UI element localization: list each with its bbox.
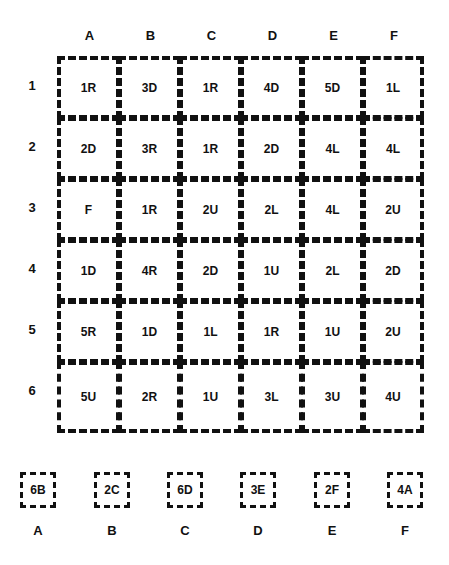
grid-cell: 1R	[179, 56, 242, 119]
answer-box: 2F	[314, 472, 350, 508]
grid-cell: 1U	[301, 300, 364, 363]
row-label: 3	[17, 200, 47, 215]
grid-cell: 2D	[240, 117, 303, 180]
answer-label: D	[243, 523, 273, 538]
grid-cell: 3R	[118, 117, 181, 180]
grid-cell: 1R	[57, 56, 120, 119]
column-label: B	[136, 28, 166, 43]
row-label: 5	[17, 322, 47, 337]
row-label: 2	[17, 139, 47, 154]
answer-label: C	[170, 523, 200, 538]
grid-cell: 4L	[362, 117, 424, 180]
answer-label: E	[317, 523, 347, 538]
grid-cell: 1R	[179, 117, 242, 180]
answer-box: 2C	[94, 472, 130, 508]
grid-cell: 2U	[179, 178, 242, 241]
row-label: 4	[17, 261, 47, 276]
puzzle-grid: 1R3D1R4D5D1L2D3R1R2D4L4LF1R2U2L4L2U1D4R2…	[57, 56, 422, 431]
grid-cell: 2D	[362, 239, 424, 302]
grid-cell: 2L	[240, 178, 303, 241]
grid-cell: 1D	[118, 300, 181, 363]
grid-cell: 4R	[118, 239, 181, 302]
grid-cell: 2R	[118, 361, 181, 433]
grid-cell: 2U	[362, 178, 424, 241]
grid-cell: 1U	[240, 239, 303, 302]
grid-cell: 5U	[57, 361, 120, 433]
grid-cell: 2L	[301, 239, 364, 302]
row-label: 1	[17, 78, 47, 93]
grid-cell: 4U	[362, 361, 424, 433]
grid-cell: 3U	[301, 361, 364, 433]
grid-cell: 3L	[240, 361, 303, 433]
grid-cell: 4D	[240, 56, 303, 119]
grid-cell: 1R	[240, 300, 303, 363]
grid-cell: 1D	[57, 239, 120, 302]
answer-label: A	[23, 523, 53, 538]
answer-label: B	[97, 523, 127, 538]
grid-cell: 5D	[301, 56, 364, 119]
grid-cell: 1L	[362, 56, 424, 119]
grid-cell: 5R	[57, 300, 120, 363]
grid-cell: 1R	[118, 178, 181, 241]
column-label: F	[379, 28, 409, 43]
grid-cell: 1L	[179, 300, 242, 363]
grid-cell: 3D	[118, 56, 181, 119]
column-label: D	[258, 28, 288, 43]
column-label: A	[75, 28, 105, 43]
column-label: E	[319, 28, 349, 43]
grid-cell: F	[57, 178, 120, 241]
answer-box: 3E	[240, 472, 276, 508]
row-label: 6	[17, 383, 47, 398]
grid-cell: 2D	[57, 117, 120, 180]
column-label: C	[197, 28, 227, 43]
grid-cell: 2D	[179, 239, 242, 302]
answer-label: F	[390, 523, 420, 538]
grid-cell: 4L	[301, 178, 364, 241]
grid-cell: 4L	[301, 117, 364, 180]
answer-box: 6D	[167, 472, 203, 508]
grid-cell: 2U	[362, 300, 424, 363]
answer-box: 6B	[20, 472, 56, 508]
answer-box: 4A	[387, 472, 423, 508]
grid-cell: 1U	[179, 361, 242, 433]
